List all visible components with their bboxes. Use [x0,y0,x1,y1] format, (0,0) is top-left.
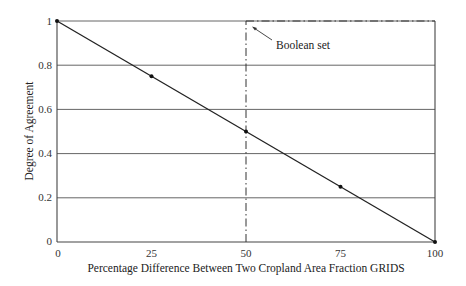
y-tick-labels: 0 0.2 0.4 0.6 0.8 1 [38,15,52,247]
boolean-set-line [246,21,435,242]
gridlines [57,21,435,198]
x-tick: 0 [55,247,61,259]
x-tick: 25 [146,247,158,259]
data-point [339,185,343,189]
data-point [150,74,154,78]
annotation-label: Boolean set [276,39,331,51]
x-tick: 100 [427,247,444,259]
y-tick: 0.4 [38,147,52,159]
x-tick-labels: 0 25 50 75 100 [55,247,444,259]
data-point [433,240,437,244]
y-tick: 0.2 [38,191,52,203]
x-axis-label: Percentage Difference Between Two Cropla… [87,262,404,275]
chart: Boolean set 0 0.2 0.4 0.6 0.8 1 0 25 50 … [0,0,466,286]
data-point [55,19,59,23]
y-tick: 0.6 [38,103,52,115]
x-tick: 75 [335,247,347,259]
x-tick: 50 [241,247,253,259]
y-tick: 1 [47,15,53,27]
y-tick: 0 [47,235,53,247]
y-tick: 0.8 [38,59,52,71]
boolean-set-annotation: Boolean set [252,27,331,52]
data-point [244,130,248,134]
y-axis-label: Degree of Agreement [23,81,36,181]
